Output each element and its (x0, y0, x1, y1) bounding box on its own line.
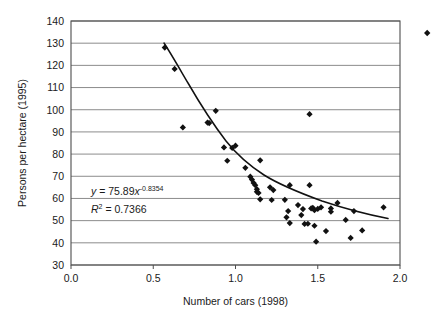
y-tick-label: 100 (46, 104, 64, 116)
y-tick-label: 140 (46, 15, 64, 27)
y-tick-label: 110 (47, 81, 64, 93)
x-tick-label: 0.5 (146, 272, 161, 284)
r-value: = 0.7366 (103, 203, 147, 215)
y-tick-label: 30 (52, 259, 64, 271)
x-axis-ticks (71, 265, 400, 269)
y-tick-label: 130 (46, 37, 64, 49)
eq-body: = 75.89 (99, 185, 134, 197)
x-axis-tick-labels: 0.0 0.5 1.0 1.5 2.0 (64, 272, 408, 284)
x-tick-label: 0.0 (64, 272, 79, 284)
y-axis-tick-labels: 140 130 120 110 100 90 80 70 60 50 40 30 (46, 15, 64, 271)
eq-exponent: -0.8354 (140, 185, 164, 192)
x-axis-title: Number of cars (1998) (183, 295, 288, 307)
x-tick-label: 1.5 (310, 272, 325, 284)
y-tick-label: 80 (52, 148, 64, 160)
y-axis-title: Persons per hectare (1995) (16, 79, 28, 207)
y-tick-label: 40 (52, 237, 64, 249)
figure-container: 140 130 120 110 100 90 80 70 60 50 40 30… (0, 0, 437, 332)
x-tick-label: 1.0 (228, 272, 243, 284)
y-tick-label: 50 (52, 214, 64, 226)
scatter-chart: 140 130 120 110 100 90 80 70 60 50 40 30… (0, 0, 437, 332)
eq-y-symbol: y (90, 185, 97, 197)
y-tick-label: 70 (52, 170, 64, 182)
x-tick-label: 2.0 (393, 272, 408, 284)
legend-marker-icon (424, 30, 430, 36)
y-tick-label: 60 (52, 192, 64, 204)
y-tick-label: 90 (52, 126, 64, 138)
y-tick-label: 120 (46, 59, 64, 71)
